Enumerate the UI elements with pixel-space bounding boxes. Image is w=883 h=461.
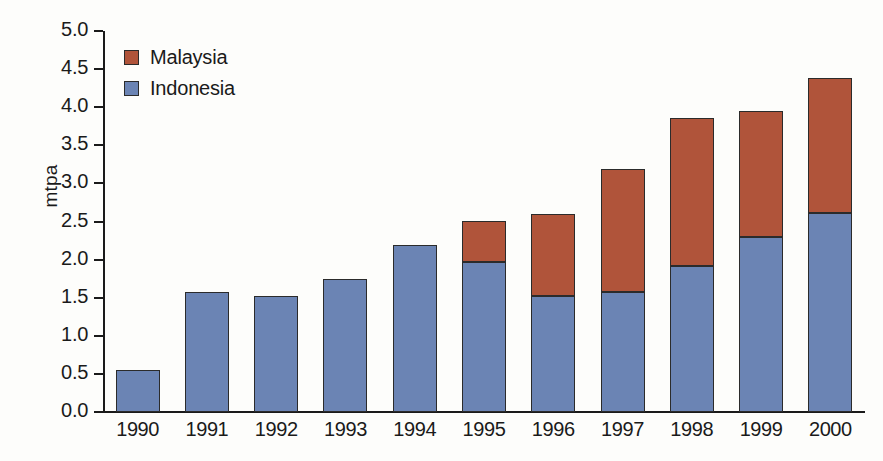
bar-group[interactable]: [323, 31, 367, 412]
bar-group[interactable]: [670, 31, 714, 412]
y-tick-mark: [94, 30, 103, 32]
y-tick-label: 4.0: [40, 94, 88, 117]
legend-swatch-indonesia: [124, 81, 139, 96]
bar-segment-indonesia[interactable]: [323, 279, 367, 412]
bar-segment-malaysia[interactable]: [670, 118, 714, 267]
bar-segment-malaysia[interactable]: [808, 78, 852, 214]
y-tick-mark: [94, 182, 103, 184]
legend-label-indonesia: Indonesia: [150, 77, 235, 100]
x-tick-label: 1996: [518, 418, 588, 441]
legend-label-malaysia: Malaysia: [150, 46, 227, 69]
bar-segment-indonesia[interactable]: [531, 296, 575, 412]
x-tick-label: 1993: [310, 418, 380, 441]
y-tick-mark: [94, 259, 103, 261]
bar-segment-indonesia[interactable]: [116, 370, 160, 412]
x-tick-label: 1991: [172, 418, 242, 441]
bar-segment-indonesia[interactable]: [462, 262, 506, 412]
y-tick-label: 0.5: [40, 361, 88, 384]
x-tick-label: 1994: [380, 418, 450, 441]
bar-segment-indonesia[interactable]: [185, 292, 229, 412]
y-tick-mark: [94, 106, 103, 108]
x-tick-label: 1997: [588, 418, 658, 441]
y-tick-label: 4.5: [40, 56, 88, 79]
x-tick-label: 1998: [657, 418, 727, 441]
y-tick-label: 0.0: [40, 399, 88, 422]
bar-group[interactable]: [254, 31, 298, 412]
legend-item-malaysia[interactable]: Malaysia: [124, 42, 235, 73]
x-tick-label: 1995: [449, 418, 519, 441]
y-tick-mark: [94, 335, 103, 337]
bar-group[interactable]: [462, 31, 506, 412]
bar-group[interactable]: [393, 31, 437, 412]
y-tick-label: 2.5: [40, 209, 88, 232]
y-tick-label: 1.5: [40, 285, 88, 308]
y-tick-mark: [94, 373, 103, 375]
y-tick-label: 5.0: [40, 18, 88, 41]
x-tick-label: 1990: [103, 418, 173, 441]
bar-segment-indonesia[interactable]: [808, 213, 852, 412]
bar-segment-malaysia[interactable]: [601, 169, 645, 292]
x-tick-label: 2000: [795, 418, 865, 441]
chart-legend: Malaysia Indonesia: [124, 42, 235, 104]
y-tick-label: 3.5: [40, 132, 88, 155]
bar-group[interactable]: [808, 31, 852, 412]
bar-group[interactable]: [739, 31, 783, 412]
x-tick-label: 1999: [726, 418, 796, 441]
x-tick-label: 1992: [241, 418, 311, 441]
bar-segment-indonesia[interactable]: [601, 292, 645, 412]
bar-segment-indonesia[interactable]: [670, 266, 714, 412]
y-tick-mark: [94, 411, 103, 413]
bar-group[interactable]: [531, 31, 575, 412]
y-tick-label: 2.0: [40, 247, 88, 270]
y-tick-mark: [94, 68, 103, 70]
bar-segment-malaysia[interactable]: [462, 221, 506, 262]
stacked-bar-chart: mtpa 0.00.51.01.52.02.53.03.54.04.55.0 1…: [0, 0, 883, 461]
y-tick-label: 3.0: [40, 170, 88, 193]
y-tick-mark: [94, 221, 103, 223]
legend-item-indonesia[interactable]: Indonesia: [124, 73, 235, 104]
bar-segment-malaysia[interactable]: [531, 214, 575, 296]
bar-segment-malaysia[interactable]: [739, 111, 783, 237]
bar-segment-indonesia[interactable]: [393, 245, 437, 412]
legend-swatch-malaysia: [124, 50, 139, 65]
bar-group[interactable]: [601, 31, 645, 412]
bar-segment-indonesia[interactable]: [254, 296, 298, 412]
bar-segment-indonesia[interactable]: [739, 237, 783, 412]
y-tick-mark: [94, 297, 103, 299]
y-tick-mark: [94, 144, 103, 146]
y-tick-label: 1.0: [40, 323, 88, 346]
